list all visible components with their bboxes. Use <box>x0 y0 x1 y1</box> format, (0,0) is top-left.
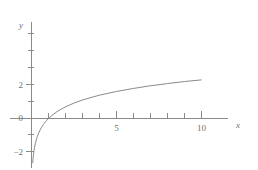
x-axis-ticks <box>49 111 202 119</box>
y-tick-label-minus-2: −2 <box>13 147 23 157</box>
ln-curve <box>33 80 202 163</box>
y-axis-ticks <box>26 34 34 152</box>
plot-canvas: 2 0 −2 5 10 y x <box>0 0 258 170</box>
y-axis-label: y <box>18 20 23 30</box>
y-tick-label-0: 0 <box>19 113 24 123</box>
x-tick-label-5: 5 <box>114 123 119 133</box>
log-function-plot: 2 0 −2 5 10 y x <box>0 0 258 170</box>
x-axis-label: x <box>235 120 240 130</box>
y-tick-label-2: 2 <box>19 80 24 90</box>
x-tick-label-10: 10 <box>197 123 207 133</box>
